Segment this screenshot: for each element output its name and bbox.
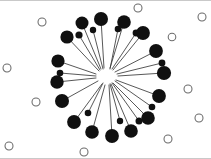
graph-node-filled bbox=[90, 27, 96, 33]
graph-node-filled bbox=[136, 118, 143, 125]
graph-node-filled bbox=[159, 60, 166, 67]
graph-node-hollow bbox=[134, 4, 142, 12]
graph-node-filled bbox=[51, 54, 64, 67]
graph-node-hollow bbox=[3, 64, 11, 72]
graph-node-filled bbox=[149, 44, 163, 58]
hub-layer bbox=[106, 74, 110, 78]
graph-node-hollow bbox=[80, 148, 88, 156]
graph-node-filled bbox=[55, 94, 69, 108]
graph-node-filled bbox=[157, 66, 171, 80]
graph-node-hollow bbox=[184, 85, 192, 93]
graph-node-filled bbox=[50, 75, 63, 88]
graph-node-filled bbox=[94, 12, 108, 26]
graph-node-filled bbox=[149, 104, 156, 111]
graph-node-filled bbox=[141, 111, 155, 125]
graph-node-hollow bbox=[168, 33, 176, 41]
graph-node-filled bbox=[136, 26, 150, 40]
graph-node-filled bbox=[117, 118, 123, 124]
graph-node-filled bbox=[115, 26, 122, 33]
radial-network-graph bbox=[0, 0, 211, 159]
center-hub-node bbox=[106, 74, 110, 78]
graph-node-hollow bbox=[32, 98, 40, 106]
graph-node-filled bbox=[105, 129, 119, 143]
graph-node-filled bbox=[124, 124, 138, 138]
graph-node-filled bbox=[85, 110, 92, 117]
graph-node-filled bbox=[75, 31, 82, 38]
figure-root bbox=[0, 0, 211, 159]
graph-node-filled bbox=[76, 17, 89, 30]
graph-node-filled bbox=[85, 125, 99, 139]
graph-node-filled bbox=[152, 89, 166, 103]
graph-node-filled bbox=[57, 70, 64, 77]
graph-node-hollow bbox=[198, 13, 206, 21]
graph-node-filled bbox=[67, 115, 81, 129]
graph-node-hollow bbox=[5, 142, 13, 150]
graph-node-hollow bbox=[164, 135, 172, 143]
graph-node-hollow bbox=[195, 114, 203, 122]
graph-node-hollow bbox=[38, 18, 46, 26]
graph-node-filled bbox=[60, 30, 73, 43]
